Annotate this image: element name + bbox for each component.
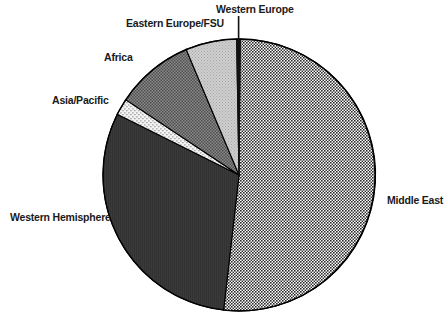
pie-label-western-europe: Western Europe: [216, 3, 294, 15]
chart-page: Western Europe Eastern Europe/FSU Africa…: [0, 0, 448, 325]
pie-slice-middle-east[interactable]: [224, 39, 376, 311]
pie-label-asia-pacific: Asia/Pacific: [52, 94, 109, 106]
pie-label-middle-east: Middle East: [387, 194, 443, 206]
pie-label-western-hemisphere: Western Hemisphere: [10, 211, 111, 223]
pie-slices: [103, 39, 376, 311]
pie-label-eastern-europe-fsu: Eastern Europe/FSU: [126, 17, 224, 29]
pie-label-africa: Africa: [104, 51, 133, 63]
pie-chart: [0, 0, 448, 325]
